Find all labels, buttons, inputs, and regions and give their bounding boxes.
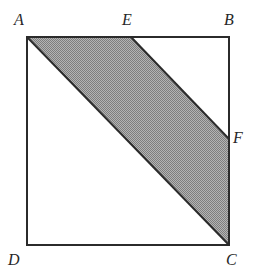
vertex-label-f: F xyxy=(233,130,243,146)
figure-canvas xyxy=(0,0,257,280)
vertex-label-d: D xyxy=(8,252,20,268)
geometry-figure: A E B F D C xyxy=(0,0,257,280)
vertex-label-b: B xyxy=(224,12,234,28)
vertex-label-e: E xyxy=(122,12,132,28)
vertex-label-a: A xyxy=(14,12,24,28)
vertex-label-c: C xyxy=(226,252,237,268)
